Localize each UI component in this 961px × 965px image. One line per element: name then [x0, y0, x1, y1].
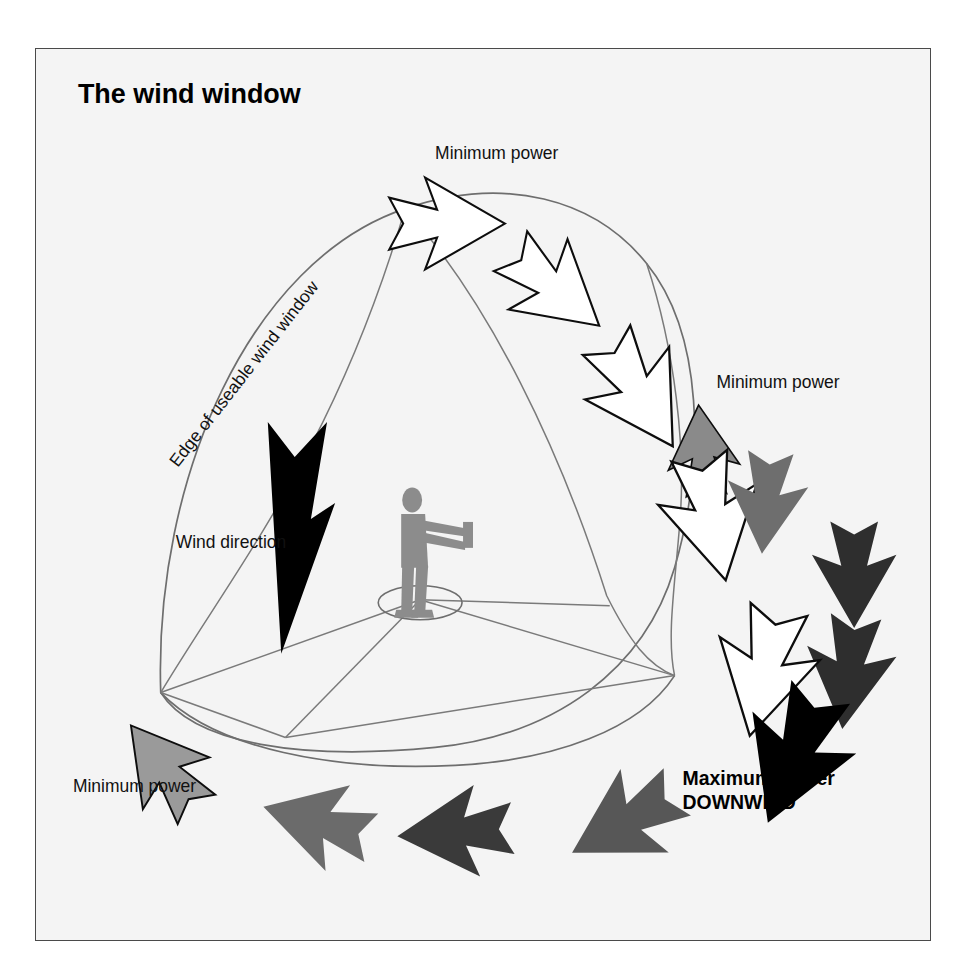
label-wind-direction: Wind direction: [176, 532, 287, 552]
rider-figure: [378, 488, 473, 620]
arrow-glyph-icon: [389, 178, 505, 270]
arrow-glyph-icon: [251, 764, 383, 881]
arrow-glyph-icon: [812, 522, 896, 628]
label-edge-of-useable-wind-window: Edge of useable wind window: [165, 277, 323, 471]
label-minimum-power-top: Minimum power: [435, 143, 558, 163]
power-arrow-minimum: [481, 216, 629, 361]
arrow-glyph-icon: [98, 699, 230, 835]
rider-head: [402, 488, 422, 513]
rider-control-bar: [463, 522, 473, 548]
arrow-glyph-icon: [548, 750, 701, 894]
page-title: The wind window: [78, 79, 301, 109]
power-arrow-minimum: [98, 699, 230, 835]
label-minimum-power-right: Minimum power: [716, 372, 839, 392]
wind-window-diagram: The wind window Minimum power Minimum po…: [36, 49, 930, 940]
dome-outline: [160, 193, 694, 751]
figure-frame: The wind window Minimum power Minimum po…: [35, 48, 931, 941]
power-arrow-minimum: [389, 178, 505, 270]
label-maximum-power-line1: Maximum power: [683, 767, 836, 789]
rider-leg-back: [401, 566, 414, 614]
power-arrow-medium: [251, 764, 383, 881]
arrow-glyph-icon: [481, 216, 629, 361]
rider-leg-front: [414, 566, 428, 614]
power-arrow-high: [394, 782, 516, 882]
label-maximum-power-line2: DOWNWIND: [683, 791, 796, 813]
label-minimum-power-bottom-left: Minimum power: [73, 776, 196, 796]
arrow-glyph-icon: [394, 782, 516, 882]
dome-wireframe: [160, 193, 694, 766]
power-arrow-high: [548, 750, 701, 894]
rider-foot-front: [411, 610, 434, 618]
power-arrow-high: [812, 522, 896, 628]
